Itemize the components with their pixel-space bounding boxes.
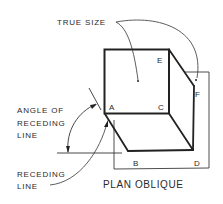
receding-edges (105, 50, 194, 152)
receding-line-label-line1: RECEDING (17, 170, 66, 179)
true-size-dot (195, 79, 197, 81)
angle-label-line3: LINE (17, 131, 38, 140)
vertex-label-b: B (133, 159, 139, 168)
figure-title: PLAN OBLIQUE (103, 179, 184, 190)
vertex-label-d: D (194, 159, 201, 168)
arrowhead-icon (66, 146, 70, 153)
true-size-dot (137, 80, 139, 82)
vertex-label-c: C (158, 103, 165, 112)
vertex-label-e: E (157, 56, 163, 65)
angle-label-line2: RECEDING (17, 119, 66, 128)
angle-label-line1: ANGLE OF (17, 106, 64, 115)
receding-line-label-line2: LINE (17, 182, 38, 191)
plan-oblique-diagram: TRUE SIZE ANGLE OF RECEDING LINE RECEDIN… (0, 0, 223, 204)
angle-arc (68, 104, 96, 152)
arrowhead-icon (90, 104, 97, 109)
true-size-label: TRUE SIZE (57, 18, 106, 27)
vertex-label-a: A (109, 103, 115, 112)
vertex-label-f: F (195, 90, 201, 99)
arrowhead-icon (104, 120, 108, 127)
